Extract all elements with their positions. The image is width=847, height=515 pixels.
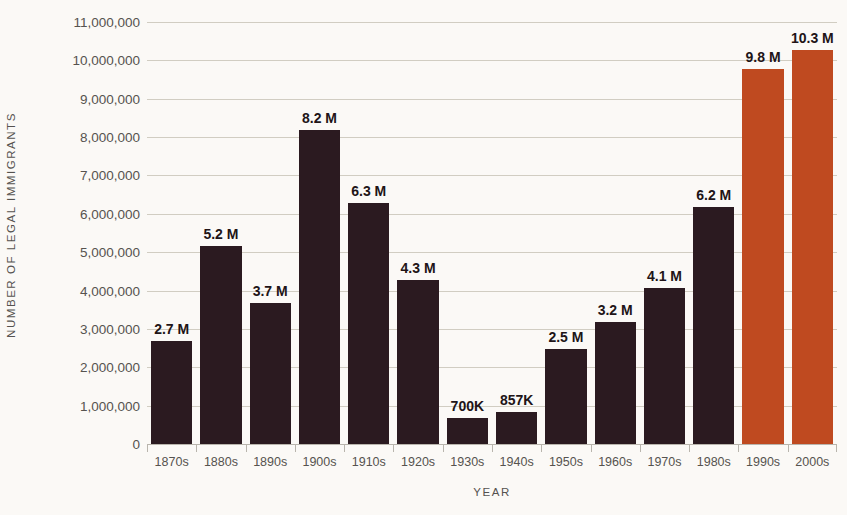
x-tick — [640, 445, 641, 452]
bar-group[interactable]: 9.8 M — [738, 0, 787, 445]
y-tick-label: 6,000,000 — [18, 206, 140, 221]
x-tick — [591, 445, 592, 452]
y-tick-label: 3,000,000 — [18, 321, 140, 336]
x-axis-tick-labels: 1870s1880s1890s1900s1910s1920s1930s1940s… — [147, 455, 837, 477]
x-tick — [344, 445, 345, 452]
bar[interactable] — [348, 203, 389, 445]
y-tick-label: 4,000,000 — [18, 283, 140, 298]
bar[interactable] — [397, 280, 438, 445]
bar-value-label: 6.3 M — [344, 183, 393, 199]
bar-value-label: 857K — [492, 392, 541, 408]
bar-group[interactable]: 2.5 M — [541, 0, 590, 445]
bar[interactable] — [693, 207, 734, 445]
x-tick-label: 1900s — [295, 455, 344, 469]
bar[interactable] — [447, 418, 488, 445]
bar[interactable] — [792, 50, 833, 445]
bar-group[interactable]: 5.2 M — [196, 0, 245, 445]
source-note-sliver — [20, 507, 580, 515]
y-tick-label: 7,000,000 — [18, 168, 140, 183]
y-tick-label: 2,000,000 — [18, 360, 140, 375]
bar[interactable] — [496, 412, 537, 445]
x-tick — [836, 445, 837, 452]
bar-value-label: 2.7 M — [147, 321, 196, 337]
bar-group[interactable]: 4.1 M — [640, 0, 689, 445]
x-tick-label: 1940s — [492, 455, 541, 469]
bar-value-label: 4.3 M — [393, 260, 442, 276]
bar[interactable] — [595, 322, 636, 445]
bar-group[interactable]: 2.7 M — [147, 0, 196, 445]
bar-group[interactable]: 6.3 M — [344, 0, 393, 445]
x-axis-ticks — [147, 445, 837, 453]
x-tick — [246, 445, 247, 452]
bar[interactable] — [151, 341, 192, 445]
bar-group[interactable]: 10.3 M — [788, 0, 837, 445]
bar-value-label: 9.8 M — [738, 49, 787, 65]
x-tick — [295, 445, 296, 452]
bar-group[interactable]: 3.2 M — [591, 0, 640, 445]
y-tick-label: 5,000,000 — [18, 245, 140, 260]
x-tick-label: 1870s — [147, 455, 196, 469]
x-tick — [393, 445, 394, 452]
bar-group[interactable]: 700K — [443, 0, 492, 445]
x-tick-label: 1970s — [640, 455, 689, 469]
y-tick-label: 0 — [18, 437, 140, 452]
x-tick-label: 1960s — [591, 455, 640, 469]
bar-group[interactable]: 857K — [492, 0, 541, 445]
bar-group[interactable]: 6.2 M — [689, 0, 738, 445]
bar-group[interactable]: 3.7 M — [246, 0, 295, 445]
x-tick — [788, 445, 789, 452]
y-tick-label: 1,000,000 — [18, 398, 140, 413]
bar[interactable] — [200, 246, 241, 445]
bar-value-label: 2.5 M — [541, 329, 590, 345]
x-tick — [443, 445, 444, 452]
immigration-bar-chart: NUMBER OF LEGAL IMMIGRANTS 01,000,0002,0… — [0, 0, 847, 515]
bar[interactable] — [644, 288, 685, 445]
bar-value-label: 10.3 M — [788, 30, 837, 46]
y-tick-label: 10,000,000 — [18, 53, 140, 68]
x-axis-title: YEAR — [147, 486, 837, 498]
x-tick-label: 1880s — [196, 455, 245, 469]
bar-value-label: 3.7 M — [246, 283, 295, 299]
bar-value-label: 3.2 M — [591, 302, 640, 318]
x-tick-label: 1930s — [443, 455, 492, 469]
y-axis-tick-labels: 01,000,0002,000,0003,000,0004,000,0005,0… — [18, 0, 140, 460]
x-tick-label: 2000s — [788, 455, 837, 469]
y-tick-label: 9,000,000 — [18, 91, 140, 106]
x-tick-label: 1990s — [738, 455, 787, 469]
x-tick-label: 1920s — [393, 455, 442, 469]
x-tick — [492, 445, 493, 452]
x-tick — [147, 445, 148, 452]
x-tick — [738, 445, 739, 452]
x-tick-label: 1890s — [246, 455, 295, 469]
bar-value-label: 700K — [443, 398, 492, 414]
x-tick-label: 1980s — [689, 455, 738, 469]
y-axis-title-label: NUMBER OF LEGAL IMMIGRANTS — [5, 112, 17, 338]
bar-value-label: 8.2 M — [295, 110, 344, 126]
y-tick-label: 8,000,000 — [18, 130, 140, 145]
bar-group[interactable]: 8.2 M — [295, 0, 344, 445]
bar[interactable] — [299, 130, 340, 445]
bar-value-label: 5.2 M — [196, 226, 245, 242]
bar-group[interactable]: 4.3 M — [393, 0, 442, 445]
bar-value-label: 4.1 M — [640, 268, 689, 284]
bar[interactable] — [742, 69, 783, 445]
plot-area: 2.7 M5.2 M3.7 M8.2 M6.3 M4.3 M700K857K2.… — [147, 0, 837, 445]
bar-value-label: 6.2 M — [689, 187, 738, 203]
x-tick — [196, 445, 197, 452]
bars-layer: 2.7 M5.2 M3.7 M8.2 M6.3 M4.3 M700K857K2.… — [147, 0, 837, 445]
x-tick — [689, 445, 690, 452]
x-tick-label: 1910s — [344, 455, 393, 469]
bar[interactable] — [250, 303, 291, 445]
bar[interactable] — [545, 349, 586, 445]
x-tick — [541, 445, 542, 452]
x-tick-label: 1950s — [541, 455, 590, 469]
y-tick-label: 11,000,000 — [18, 15, 140, 30]
